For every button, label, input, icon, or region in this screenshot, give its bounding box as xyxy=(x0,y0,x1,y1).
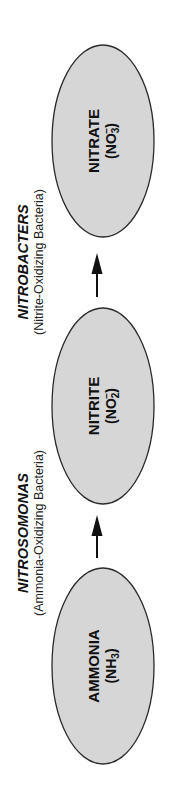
arrow-nitrite-to-nitrate-icon xyxy=(92,253,103,297)
nitrate-label: NITRATE xyxy=(85,109,102,173)
nitrobacters-name: NITROBACTERS xyxy=(15,204,31,320)
nitrobacters-description: (Nitrite-Oxidizing Bacteria) xyxy=(32,189,46,335)
nitrate-formula: (NO3−) xyxy=(101,123,121,159)
transition-label-nitrosomonas: NITROSOMONAS (Ammonia-Oxidizing Bacteria… xyxy=(15,450,46,616)
nitrite-formula: (NO2−) xyxy=(101,388,121,424)
ammonia-formula: (NH3) xyxy=(103,648,121,683)
nitrite-label: NITRITE xyxy=(85,377,102,435)
node-nitrate: NITRATE (NO3−) xyxy=(52,45,154,237)
node-nitrite: NITRITE (NO2−) xyxy=(52,308,154,504)
arrow-ammonia-to-nitrite-icon xyxy=(92,515,103,558)
transition-label-nitrobacters: NITROBACTERS (Nitrite-Oxidizing Bacteria… xyxy=(15,189,46,335)
nitrosomonas-name: NITROSOMONAS xyxy=(15,473,31,593)
nitrosomonas-description: (Ammonia-Oxidizing Bacteria) xyxy=(32,450,46,616)
ammonia-label: AMMONIA xyxy=(85,629,102,702)
nitrification-diagram: NITRATE (NO3−) NITROBACTERS (Nitrite-Oxi… xyxy=(0,0,175,791)
node-ammonia: AMMONIA (NH3) xyxy=(52,568,154,764)
